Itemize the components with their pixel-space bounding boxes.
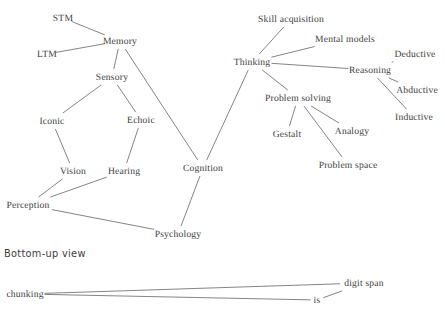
edge-digit-span-to-chunking (44, 284, 340, 294)
node-perception[interactable]: Perception (7, 200, 50, 211)
node-problem-space[interactable]: Problem space (319, 160, 378, 171)
edge-echoic-to-hearing (127, 128, 139, 163)
node-iconic[interactable]: Iconic (39, 116, 64, 127)
edge-iconic-to-vision (55, 129, 69, 163)
edge-thinking-to-mental-models (271, 47, 314, 58)
node-abductive[interactable]: Abductive (396, 85, 438, 96)
edge-thinking-to-reasoning (271, 63, 348, 68)
edge-psychology-to-cognition (181, 176, 200, 226)
node-memory[interactable]: Memory (103, 36, 137, 47)
edge-hearing-to-perception (50, 177, 106, 197)
node-vision[interactable]: Vision (60, 166, 86, 177)
edge-ltm-to-memory (56, 44, 105, 53)
edge-memory-to-cognition (125, 49, 198, 160)
node-gestalt[interactable]: Gestalt (273, 129, 302, 140)
edge-is-to-digit-span (323, 291, 342, 298)
concept-map-canvas: STMLTMMemorySensoryIconicEchoicVisionHea… (0, 0, 445, 323)
section-label-bottom-up-view: Bottom-up view (4, 248, 86, 259)
edge-memory-to-sensory (114, 49, 118, 69)
node-is[interactable]: is (314, 295, 321, 306)
edge-chunking-to-is (44, 294, 310, 299)
node-hearing[interactable]: Hearing (108, 166, 140, 177)
edge-stm-to-memory (72, 21, 105, 34)
node-echoic[interactable]: Echoic (127, 115, 155, 126)
node-sensory[interactable]: Sensory (96, 72, 128, 83)
edge-thinking-to-skill-acquisition (259, 27, 284, 54)
node-analogy[interactable]: Analogy (335, 126, 369, 137)
edge-sensory-to-iconic (63, 85, 101, 113)
node-psychology[interactable]: Psychology (155, 229, 202, 240)
edge-sensory-to-echoic (117, 85, 135, 112)
node-skill-acquisition[interactable]: Skill acquisition (258, 14, 324, 25)
edge-vision-to-perception (39, 179, 63, 197)
node-deductive[interactable]: Deductive (394, 49, 435, 60)
node-stm[interactable]: STM (53, 13, 73, 24)
node-reasoning[interactable]: Reasoning (349, 65, 391, 76)
edge-perception-to-psychology (52, 210, 154, 230)
node-problem-solving[interactable]: Problem solving (265, 93, 331, 104)
edge-reasoning-to-deductive (392, 62, 394, 63)
edge-thinking-to-problem-solving (262, 70, 288, 90)
node-thinking[interactable]: Thinking (234, 57, 271, 68)
edge-problem-solving-to-gestalt (289, 106, 295, 126)
node-inductive[interactable]: Inductive (395, 112, 433, 123)
node-digit-span[interactable]: digit span (344, 278, 384, 289)
node-cognition[interactable]: Cognition (183, 163, 223, 174)
node-ltm[interactable]: LTM (37, 49, 57, 60)
node-chunking[interactable]: chunking (6, 289, 43, 300)
edge-layer (0, 0, 445, 323)
edge-problem-solving-to-analogy (311, 106, 339, 123)
node-mental-models[interactable]: Mental models (315, 34, 375, 45)
edge-cognition-to-thinking (207, 70, 249, 160)
edge-reasoning-to-abductive (389, 78, 399, 82)
